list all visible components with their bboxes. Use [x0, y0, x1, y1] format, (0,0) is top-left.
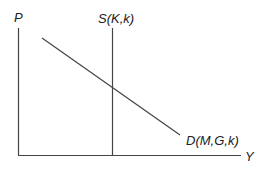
demand-label: D(M,G,k): [186, 133, 239, 148]
y-axis-label: P: [14, 10, 23, 25]
supply-curve: S(K,k): [98, 11, 134, 156]
x-axis-label: Y: [245, 149, 255, 164]
supply-label: S(K,k): [98, 11, 134, 26]
demand-line: [42, 38, 180, 135]
demand-curve: D(M,G,k): [42, 38, 239, 148]
aggregate-supply-demand-diagram: P Y S(K,k) D(M,G,k): [0, 0, 266, 170]
